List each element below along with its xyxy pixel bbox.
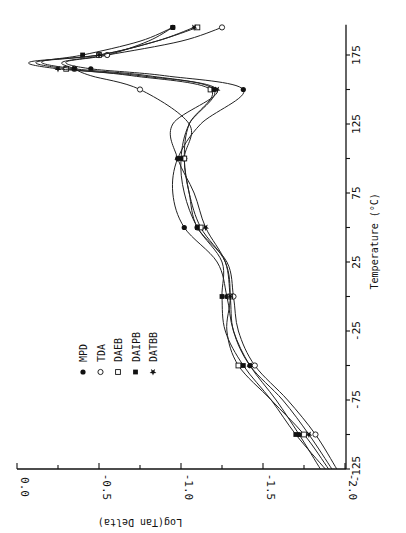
data-curves: [29, 25, 337, 470]
legend-label: MPD: [78, 344, 89, 362]
curve-line: [66, 27, 321, 469]
temp-tick-label: -25: [350, 321, 363, 341]
curve-line: [29, 27, 332, 469]
log-tick-label: -1.0: [182, 474, 195, 501]
filled-circle-legend-icon: [80, 369, 85, 374]
filled-square-marker: [293, 432, 298, 437]
open-circle-marker: [137, 87, 142, 92]
open-circle-marker: [219, 25, 224, 30]
open-square-legend-icon: [116, 370, 121, 375]
temp-tick-label: 75: [350, 186, 363, 199]
series-mpd: [66, 25, 321, 469]
legend-item-tda: TDA: [96, 344, 107, 375]
temperature-axis-title: Temperature (°C): [369, 193, 380, 289]
filled-circle-marker: [241, 87, 246, 92]
filled-circle-marker: [182, 225, 187, 230]
series-datbb: [29, 25, 332, 470]
open-square-marker: [236, 363, 241, 368]
chart-svg: 0.0-0.5-1.0-1.5-2.0Log(Tan Delta)-125-75…: [0, 0, 406, 533]
temp-tick-label: 25: [350, 255, 363, 268]
legend-label: DAIPB: [131, 332, 142, 362]
filled-square-marker: [195, 225, 200, 230]
temp-tick-label: -125: [350, 456, 363, 483]
filled-square-legend-icon: [133, 370, 138, 375]
open-circle-marker: [313, 432, 318, 437]
filled-star-legend-icon: [150, 369, 157, 376]
legend-item-daipb: DAIPB: [131, 332, 142, 375]
axes: 0.0-0.5-1.0-1.5-2.0Log(Tan Delta)-125-75…: [17, 25, 380, 528]
curve-line: [62, 27, 337, 469]
temp-tick-label: -75: [350, 390, 363, 410]
log-tick-label: 0.0: [18, 477, 31, 497]
legend-item-daeb: DAEB: [113, 338, 124, 374]
legend-label: DAEB: [113, 338, 124, 362]
temp-tick-label: 175: [350, 45, 363, 65]
open-square-marker: [302, 432, 307, 437]
log-axis-title: Log(Tan Delta): [98, 517, 182, 528]
legend-label: TDA: [96, 344, 107, 362]
log-tick-label: -1.5: [264, 474, 277, 501]
log-tick-label: -0.5: [100, 474, 113, 501]
legend-label: DATBB: [148, 332, 159, 362]
filled-square-marker: [170, 25, 175, 30]
series-daipb: [42, 25, 326, 469]
legend-item-mpd: MPD: [78, 344, 89, 375]
curve-line: [42, 27, 326, 469]
legend-item-datbb: DATBB: [148, 332, 159, 376]
legend: MPDTDADAEBDAIPBDATBB: [78, 332, 159, 376]
filled-square-marker: [241, 363, 246, 368]
temp-tick-label: 125: [350, 114, 363, 134]
open-circle-legend-icon: [98, 369, 103, 374]
filled-square-marker: [220, 294, 225, 299]
open-circle-marker: [252, 363, 257, 368]
series-tda: [62, 25, 337, 469]
